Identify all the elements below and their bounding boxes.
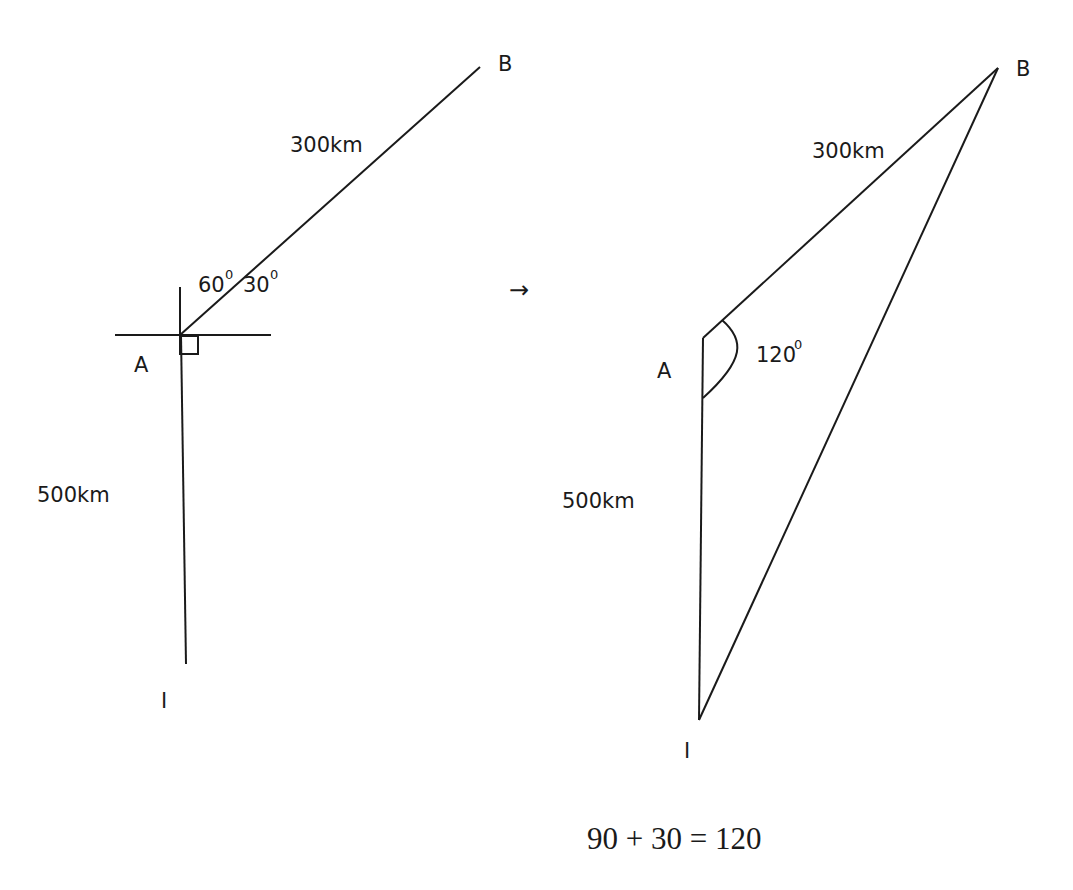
- segment-A-B-right: [703, 68, 998, 338]
- label-B-right: B: [1016, 57, 1030, 81]
- right-figure: B A I 300km 500km 120 0: [562, 57, 1030, 763]
- segment-I-B-right: [699, 68, 998, 720]
- segment-A-B: [180, 67, 480, 335]
- label-500km-left: 500km: [37, 483, 110, 507]
- segment-A-I: [181, 335, 186, 664]
- label-A-left: A: [134, 353, 149, 377]
- transition-arrow: →: [509, 276, 529, 304]
- angle-120-label: 120: [756, 343, 796, 367]
- left-figure: B A I 300km 500km 60 0 30 0: [37, 52, 512, 713]
- angle-30-label: 30: [243, 273, 270, 297]
- angle-120-arc: [703, 320, 737, 398]
- label-300km-left: 300km: [290, 133, 363, 157]
- label-300km-right: 300km: [812, 139, 885, 163]
- segment-A-I-right: [699, 338, 703, 720]
- angle-120-degree-mark: 0: [794, 337, 802, 352]
- angle-60-label: 60: [198, 273, 225, 297]
- label-B-left: B: [498, 52, 512, 76]
- label-I-left: I: [161, 689, 167, 713]
- angle-30-degree-mark: 0: [270, 267, 278, 282]
- equation: 90 + 30 = 120: [587, 821, 761, 856]
- angle-60-degree-mark: 0: [225, 267, 233, 282]
- label-I-right: I: [684, 739, 690, 763]
- right-angle-marker: [180, 336, 198, 354]
- label-500km-right: 500km: [562, 489, 635, 513]
- label-A-right: A: [657, 359, 672, 383]
